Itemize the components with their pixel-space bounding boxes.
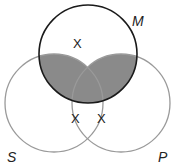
x-mark-s-side: X xyxy=(71,111,80,126)
label-m: M xyxy=(132,13,144,29)
label-s: S xyxy=(7,149,17,165)
label-p: P xyxy=(158,149,168,165)
x-mark-m-only: X xyxy=(73,36,82,51)
venn-diagram: M S P X X X xyxy=(0,0,176,167)
x-mark-p-side: X xyxy=(97,111,106,126)
